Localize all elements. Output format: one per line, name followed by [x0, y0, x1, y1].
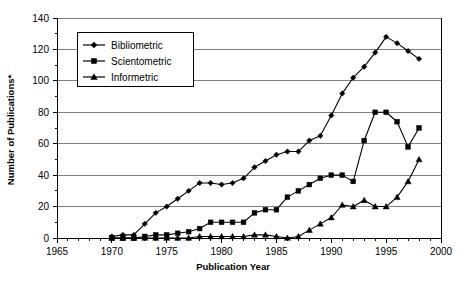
- data-point-bibliometric-1979: [208, 180, 213, 185]
- x-tick-label-1965: 1965: [46, 246, 69, 257]
- x-tick-label-1970: 1970: [101, 246, 124, 257]
- data-point-informetric-1997: [405, 178, 411, 183]
- chart-container: 19651970197519801985199019952000 0204060…: [0, 0, 467, 290]
- x-tick-label-1990: 1990: [320, 246, 343, 257]
- data-point-scientometric-1982: [241, 220, 246, 225]
- data-point-informetric-1991: [339, 202, 345, 207]
- x-tick-label-1980: 1980: [210, 246, 233, 257]
- series-line-informetric: [112, 159, 419, 238]
- data-point-scientometric-1977: [186, 229, 191, 234]
- data-point-bibliometric-1985: [274, 152, 279, 157]
- data-point-bibliometric-1980: [219, 182, 224, 187]
- x-axis-tick-labels: 19651970197519801985199019952000: [46, 246, 453, 257]
- legend-label-bibliometric: Bibliometric: [111, 40, 163, 51]
- data-point-scientometric-1992: [351, 179, 356, 184]
- data-point-informetric-1989: [317, 221, 323, 226]
- data-point-scientometric-1984: [263, 207, 268, 212]
- y-tick-label-0: 0: [43, 233, 49, 244]
- data-point-scientometric-1995: [384, 110, 389, 115]
- x-tick-label-1975: 1975: [156, 246, 179, 257]
- data-point-scientometric-1983: [252, 210, 257, 215]
- data-point-bibliometric-1990: [329, 113, 334, 118]
- x-tick-label-1995: 1995: [375, 246, 398, 257]
- chart-legend: BibliometricScientometricInformetric: [77, 32, 193, 86]
- y-axis-title: Number of Publications*: [5, 75, 16, 186]
- x-axis-title: Publication Year: [196, 261, 270, 272]
- x-tick-label-2000: 2000: [430, 246, 453, 257]
- data-point-scientometric-1989: [318, 176, 323, 181]
- data-point-scientometric-1978: [197, 226, 202, 231]
- data-point-scientometric-1990: [329, 173, 334, 178]
- data-point-scientometric-1994: [373, 110, 378, 115]
- data-point-bibliometric-1989: [318, 133, 323, 138]
- data-point-scientometric-1979: [208, 220, 213, 225]
- data-point-scientometric-1981: [230, 220, 235, 225]
- data-point-scientometric-1998: [417, 126, 422, 131]
- y-tick-label-120: 120: [32, 44, 49, 55]
- publications-line-chart: 19651970197519801985199019952000 0204060…: [0, 0, 467, 290]
- data-point-informetric-1993: [361, 197, 367, 202]
- data-point-scientometric-1985: [274, 207, 279, 212]
- data-point-informetric-1988: [306, 227, 312, 232]
- data-point-bibliometric-1981: [230, 180, 235, 185]
- y-tick-label-20: 20: [38, 201, 50, 212]
- data-point-scientometric-1987: [296, 188, 301, 193]
- data-point-scientometric-1991: [340, 173, 345, 178]
- legend-label-informetric: Informetric: [111, 72, 158, 83]
- legend-marker-square-icon: [91, 58, 96, 63]
- data-point-bibliometric-1986: [285, 149, 290, 154]
- y-axis-tick-labels: 020406080100120140: [32, 13, 49, 244]
- data-point-bibliometric-1984: [263, 158, 268, 163]
- data-point-scientometric-1997: [406, 144, 411, 149]
- x-tick-label-1985: 1985: [265, 246, 288, 257]
- data-point-informetric-1998: [416, 156, 422, 161]
- data-point-scientometric-1980: [219, 220, 224, 225]
- series-informetric: [109, 156, 422, 240]
- y-tick-label-100: 100: [32, 75, 49, 86]
- y-tick-label-140: 140: [32, 13, 49, 24]
- y-tick-label-40: 40: [38, 170, 50, 181]
- data-point-scientometric-1993: [362, 138, 367, 143]
- data-point-scientometric-1986: [285, 195, 290, 200]
- y-tick-label-60: 60: [38, 138, 50, 149]
- legend-label-scientometric: Scientometric: [111, 56, 172, 67]
- data-point-informetric-1987: [295, 233, 301, 238]
- y-tick-label-80: 80: [38, 107, 50, 118]
- data-point-scientometric-1988: [307, 182, 312, 187]
- data-point-scientometric-1996: [395, 119, 400, 124]
